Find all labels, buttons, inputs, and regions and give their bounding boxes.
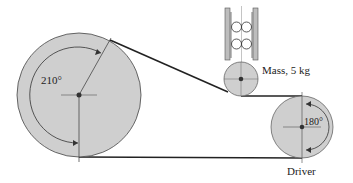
idler-pulley (224, 62, 258, 96)
large-pulley (17, 33, 141, 162)
driver-label: Driver (287, 166, 316, 177)
large-pulley-angle-label: 210° (41, 75, 62, 86)
idler-mass-label: Mass, 5 kg (262, 65, 310, 76)
driver-pulley (271, 92, 333, 163)
belt-drive-diagram (0, 0, 353, 183)
guide-rails (225, 6, 258, 62)
driver-angle-label: 180° (304, 117, 323, 127)
